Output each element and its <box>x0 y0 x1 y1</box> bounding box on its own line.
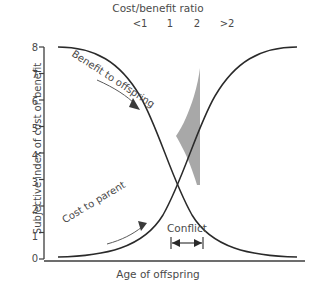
chart-figure: Cost/benefit ratio <1 1 2 >2 Subjective … <box>0 0 316 288</box>
y-axis-ticks <box>39 47 44 259</box>
cost-annotation-arrow <box>107 221 147 244</box>
conflict-zone-shading <box>176 68 200 185</box>
chart-plot-area <box>0 0 316 288</box>
x-axis-title: Age of offspring <box>0 268 316 280</box>
conflict-label: Conflict <box>167 222 207 234</box>
